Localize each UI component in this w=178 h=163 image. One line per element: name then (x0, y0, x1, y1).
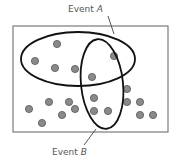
outcome-point (123, 98, 130, 105)
outcome-point (90, 107, 97, 114)
outcome-point (90, 94, 97, 101)
outcome-point (71, 105, 78, 112)
outcome-point (38, 119, 45, 126)
outcome-point (104, 107, 111, 114)
venn-diagram: Event A Event B (0, 0, 178, 163)
outcome-point (149, 111, 156, 118)
outcome-point (53, 40, 60, 47)
event-b-leader-line (84, 129, 96, 145)
outcome-point (136, 111, 143, 118)
outcome-point (71, 65, 78, 72)
outcome-point (136, 98, 143, 105)
outcome-point (65, 98, 72, 105)
event-a-leader-line (108, 16, 114, 34)
outcome-point (25, 105, 32, 112)
outcome-point (123, 85, 130, 92)
event-b-label: Event B (52, 147, 87, 157)
outcome-point (88, 73, 95, 80)
outcome-point (51, 64, 58, 71)
outcome-point (31, 57, 38, 64)
outcome-point (58, 111, 65, 118)
outcome-point (45, 98, 52, 105)
outcome-points (25, 40, 156, 126)
event-a-label: Event A (68, 4, 103, 14)
